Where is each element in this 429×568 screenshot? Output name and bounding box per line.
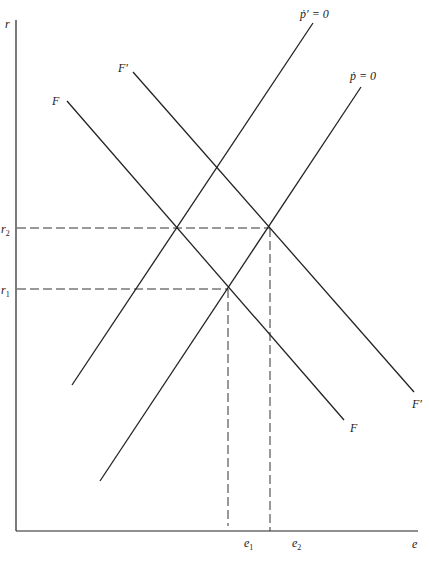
- tick-r1: r1: [1, 283, 10, 299]
- x-axis-label: e: [412, 537, 418, 551]
- label-F-prime-start: F′: [117, 61, 128, 75]
- label-F-prime-end: F′: [411, 397, 422, 411]
- curve-F-prime: [133, 72, 414, 392]
- tick-r2: r2: [1, 222, 10, 238]
- label-p-dot-prime-zero: ṗ′ = 0: [299, 7, 329, 21]
- label-p-dot-zero: ṗ = 0: [349, 69, 376, 83]
- tick-e2: e2: [292, 536, 301, 552]
- y-axis-label: r: [5, 17, 10, 31]
- tick-e1: e1: [244, 536, 253, 552]
- diagram-canvas: r e r2 r1 e1 e2 F F F′ F′ ṗ′ = 0 ṗ = 0: [0, 0, 429, 568]
- curve-p-dot-prime-zero: [72, 23, 313, 385]
- label-F-end: F: [349, 421, 358, 435]
- curve-F: [67, 101, 344, 420]
- label-F-start: F: [51, 94, 60, 108]
